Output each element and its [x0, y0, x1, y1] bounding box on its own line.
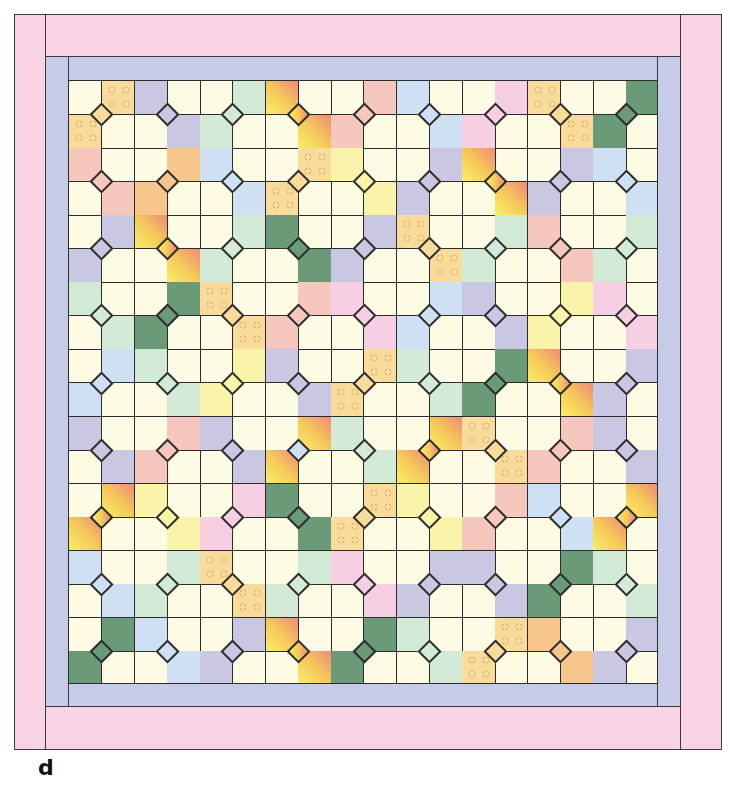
inner-border-top [68, 56, 659, 81]
outer-border-top [45, 14, 681, 57]
inner-border-bottom [68, 683, 658, 707]
figure-label: d [38, 755, 54, 780]
quilt-center-grid [68, 80, 658, 684]
outer-border-bottom [45, 706, 681, 750]
inner-border-left [45, 56, 69, 707]
outer-border-right [680, 14, 722, 750]
inner-border-right [657, 56, 681, 707]
outer-border-left [14, 14, 46, 750]
